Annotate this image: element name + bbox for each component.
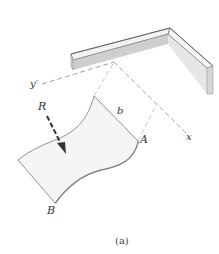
- point-a-label: A: [140, 134, 148, 145]
- figure-caption: (a): [115, 236, 129, 246]
- y-prime-axis-label: y′: [30, 79, 38, 89]
- x-axis-line: [114, 62, 186, 133]
- wall: [71, 28, 213, 94]
- wall-right-end: [207, 66, 213, 94]
- figure-canvas: y′ x R b A B (a): [0, 0, 219, 254]
- x-axis-label: x: [186, 132, 192, 142]
- width-dimension-label: b: [117, 106, 123, 116]
- resultant-force-label: R: [38, 101, 46, 112]
- diagram-svg: [0, 0, 219, 254]
- point-b-label: B: [47, 205, 55, 216]
